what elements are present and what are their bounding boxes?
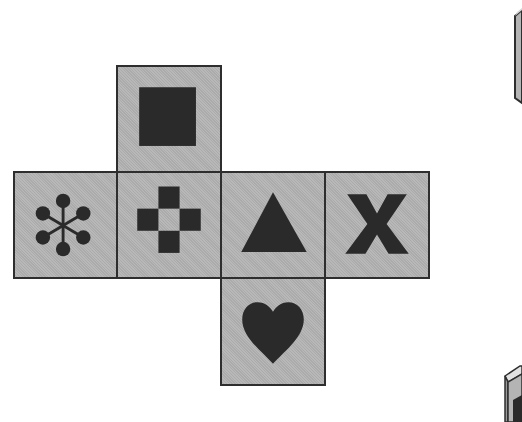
x-letter-icon (326, 173, 428, 277)
asterisk-dots-icon (15, 173, 116, 277)
heart-icon (222, 279, 324, 384)
face-center-right-triangle (220, 171, 326, 279)
cube-option-top-right (505, 0, 522, 110)
four-square-cross-icon (118, 173, 220, 277)
face-right-x (324, 171, 430, 279)
cube-option-bottom-right (500, 360, 522, 422)
filled-square-icon (118, 67, 220, 171)
face-left-asterisk (13, 171, 118, 279)
triangle-icon (222, 173, 324, 277)
face-bottom-heart (220, 277, 326, 386)
face-top-square (116, 65, 222, 173)
face-center-left-cross (116, 171, 222, 279)
